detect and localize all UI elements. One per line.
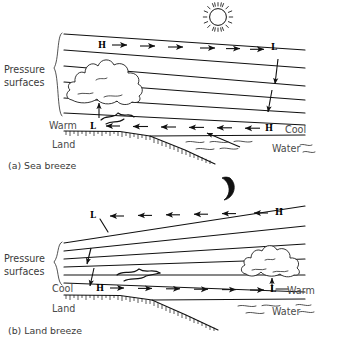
land-label-b: Land <box>52 303 75 314</box>
label-aloft-H-a: H <box>98 40 106 50</box>
pressure-bracket-b <box>54 242 62 285</box>
warm-water-label-b: Warm <box>287 285 315 296</box>
label-surface-L-a: L <box>90 121 96 131</box>
warm-land-label-a: Warm <box>49 120 77 131</box>
subsidence-arrows-a <box>268 59 278 112</box>
label-surface-L-b: L <box>270 284 276 294</box>
land-surface-b <box>64 295 218 331</box>
panel-sea-breeze: H L L H Pressure surfaces Warm Land Cool… <box>4 2 315 171</box>
diagram-canvas: H L L H Pressure surfaces Warm Land Cool… <box>0 0 339 348</box>
panel-land-breeze: L H H L Pressure surfaces Cool Land Warm… <box>4 177 315 336</box>
pressure-surfaces-label-line2-a: surfaces <box>4 77 44 88</box>
caption-land-breeze: (b) Land breeze <box>8 325 82 336</box>
moon-icon <box>222 177 234 200</box>
land-label-a: Land <box>52 139 75 150</box>
cool-land-label-b: Cool <box>52 283 73 294</box>
cumulus-cloud-b <box>241 246 299 277</box>
label-aloft-L-a: L <box>271 42 277 52</box>
pressure-surfaces-label-line2-b: surfaces <box>4 266 44 277</box>
sun-icon <box>203 2 233 32</box>
cumulus-cloud-a <box>67 60 142 105</box>
water-label-b: Water <box>272 306 300 317</box>
surface-flow-a <box>106 126 260 128</box>
label-surface-H-a: H <box>265 123 273 133</box>
pressure-bracket-a <box>54 33 62 116</box>
label-surface-H-b: H <box>96 283 104 293</box>
cool-water-label-a: Cool <box>285 124 306 135</box>
figure-root: H L L H Pressure surfaces Warm Land Cool… <box>0 0 339 348</box>
caption-sea-breeze: (a) Sea breeze <box>8 160 77 171</box>
pressure-surfaces-label-line1-b: Pressure <box>4 253 45 264</box>
pressure-surfaces-label-line1-a: Pressure <box>4 64 45 75</box>
water-label-a: Water <box>272 143 300 154</box>
label-aloft-L-b: L <box>90 210 96 220</box>
label-aloft-H-b: H <box>275 207 283 217</box>
subsidence-arrows-b <box>87 248 94 286</box>
